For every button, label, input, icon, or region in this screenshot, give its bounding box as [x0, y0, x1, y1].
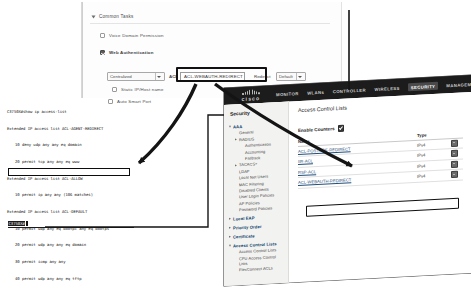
- webauth-mode-select[interactable]: Centralized: [107, 72, 165, 81]
- acl-type: IPv4: [417, 151, 451, 158]
- checkbox-web-authentication[interactable]: Web Authentication: [100, 50, 154, 55]
- cli-line: 20 permit tcp any any eq www: [7, 159, 207, 165]
- nav-item-management[interactable]: MANAGEMENT: [446, 81, 471, 88]
- cli-prompt-text: C3750X#: [8, 221, 25, 226]
- chevron-down-icon: [92, 15, 96, 18]
- sidebar-item-priority-order[interactable]: Priority Order: [229, 223, 285, 231]
- acl-field-highlight: [176, 67, 267, 82]
- nav-item-controller[interactable]: CONTROLLER: [333, 87, 366, 94]
- chevron-icon: [235, 138, 237, 140]
- wlc-body: Security AAA General RADIUS Authenticati…: [224, 92, 471, 286]
- sidebar-item-label: MAC Filtering: [239, 180, 264, 186]
- chevron-down-icon: [296, 73, 303, 80]
- cli-underline: [8, 227, 134, 228]
- cli-line: 40 permit udp any any eq tftp: [7, 276, 207, 282]
- wlc-browser-window: cisco MONITOR WLANs CONTROLLER WIRELESS …: [224, 75, 471, 286]
- redirect-value: Default: [279, 74, 293, 79]
- acl-type: IPv4: [417, 172, 451, 179]
- sidebar-item-flexconnect-acls[interactable]: FlexConnect ACLs: [235, 265, 285, 273]
- cli-line-highlight-box: [8, 168, 130, 175]
- sidebar-item-label: LDAP: [239, 168, 250, 174]
- chevron-icon: [229, 126, 231, 128]
- chevron-icon: [229, 236, 231, 238]
- cli-line: 10 permit ip any any (106 matches): [7, 192, 207, 198]
- nav-item-wlans[interactable]: WLANs: [307, 89, 324, 95]
- row-menu-button[interactable]: [451, 160, 458, 168]
- nav-item-wireless[interactable]: WIRELESS: [375, 85, 400, 91]
- cli-line: Extended IP access list ACL-AGENT-REDIRE…: [7, 126, 207, 132]
- sidebar-item-certificate[interactable]: Certificate: [229, 232, 285, 240]
- checkbox-checked-icon: [100, 50, 105, 55]
- nav-item-monitor[interactable]: MONITOR: [276, 91, 299, 97]
- sidebar-item-label: AAA: [233, 124, 242, 129]
- composite-diagram: Common Tasks Voice Domain Permission Web…: [0, 0, 471, 290]
- common-tasks-title: Common Tasks: [99, 14, 134, 19]
- chevron-icon: [235, 164, 237, 166]
- row-menu-button[interactable]: [451, 139, 458, 147]
- sidebar-item-label: Certificate: [233, 233, 255, 239]
- redirect-select[interactable]: Default: [276, 72, 306, 81]
- column-header-type: Type: [417, 131, 451, 138]
- chevron-icon: [229, 218, 231, 220]
- cli-prompt: C3750X#: [8, 221, 28, 226]
- checkbox-icon: [112, 87, 117, 92]
- enable-counters-label: Enable Counters: [298, 126, 335, 133]
- sidebar-item-label: Accounting: [245, 148, 265, 154]
- common-tasks-header[interactable]: Common Tasks: [92, 14, 134, 19]
- chevron-icon: [229, 245, 231, 247]
- sidebar-list: AAA General RADIUS Authentication Accoun…: [229, 122, 285, 275]
- cli-output: C3750X#show ip access-list Extended IP a…: [7, 98, 207, 290]
- cli-line: 20 permit udp any any eq domain: [7, 242, 207, 248]
- enable-counters-checkbox[interactable]: [338, 125, 345, 132]
- enable-counters-row[interactable]: Enable Counters: [298, 125, 344, 134]
- acl-table: Name Type ACL-POSTURE-REDIRECT IPv4 IIR-…: [298, 130, 463, 188]
- sidebar-item-cpu-acl[interactable]: CPU Access Control Lists: [235, 254, 285, 267]
- checkbox-static-ip-hostname[interactable]: Static IP/Host name: [112, 87, 164, 92]
- cli-line: C3750X#show ip access-list: [7, 109, 207, 115]
- wlc-sidebar: Security AAA General RADIUS Authenticati…: [224, 102, 289, 286]
- checkbox-icon: [100, 33, 105, 38]
- sidebar-item-label: Disabled Clients: [239, 187, 269, 194]
- chevron-icon: [229, 227, 231, 229]
- cli-line: Extended IP access list ACL-DEFAULT: [7, 209, 207, 215]
- cisco-logo-icon: cisco: [234, 89, 268, 103]
- checkbox-voice-domain-permission[interactable]: Voice Domain Permission: [100, 33, 164, 38]
- sidebar-item-label: Priority Order: [233, 224, 262, 231]
- sidebar-item-label: General: [239, 130, 254, 136]
- sidebar-title: Security: [230, 110, 250, 117]
- sidebar-item-password-policies[interactable]: Password Policies: [235, 205, 285, 213]
- row-menu-button[interactable]: [451, 150, 458, 158]
- acl-type: IPv4: [417, 162, 451, 169]
- column-header-actions: [451, 130, 463, 136]
- webauth-mode-value: Centralized: [110, 74, 132, 79]
- row-menu-button[interactable]: [451, 171, 458, 179]
- checkbox-label: Static IP/Host name: [121, 87, 164, 92]
- chevron-down-icon: [155, 73, 162, 80]
- sidebar-item-label: Password Policies: [239, 206, 272, 213]
- cli-line: 10 deny udp any any eq domain: [7, 142, 207, 148]
- selected-row-highlight: [306, 197, 459, 216]
- sidebar-item-label: Local EAP: [233, 215, 255, 221]
- sidebar-item-label: CPU Access Control Lists: [239, 254, 285, 266]
- sidebar-item-label: Local Net Users: [239, 174, 268, 181]
- sidebar-item-label: FlexConnect ACLs: [239, 266, 273, 273]
- checkbox-label: Web Authentication: [109, 50, 154, 55]
- wlc-main-content: Access Control Lists Enable Counters Nam…: [288, 92, 471, 283]
- sidebar-item-label: TACACS+: [239, 162, 257, 168]
- divider: [90, 23, 330, 24]
- cisco-wordmark: cisco: [242, 95, 261, 102]
- sidebar-item-local-eap[interactable]: Local EAP: [229, 214, 285, 222]
- sidebar-item-label: RADIUS: [239, 136, 254, 142]
- sidebar-item-label: AP Policies: [239, 200, 260, 206]
- page-title: Access Control Lists: [298, 105, 347, 114]
- sidebar-item-label: Fallback: [245, 155, 260, 161]
- cli-cursor: [26, 221, 28, 226]
- acl-type: IPv4: [417, 141, 451, 148]
- nav-item-security[interactable]: SECURITY: [408, 82, 438, 92]
- cli-line: 30 permit icmp any any: [7, 259, 207, 265]
- cli-line: Extended IP access list ACL-ALLOW: [7, 176, 207, 182]
- checkbox-label: Voice Domain Permission: [109, 33, 164, 38]
- sidebar-item-label: Authentication: [245, 142, 271, 148]
